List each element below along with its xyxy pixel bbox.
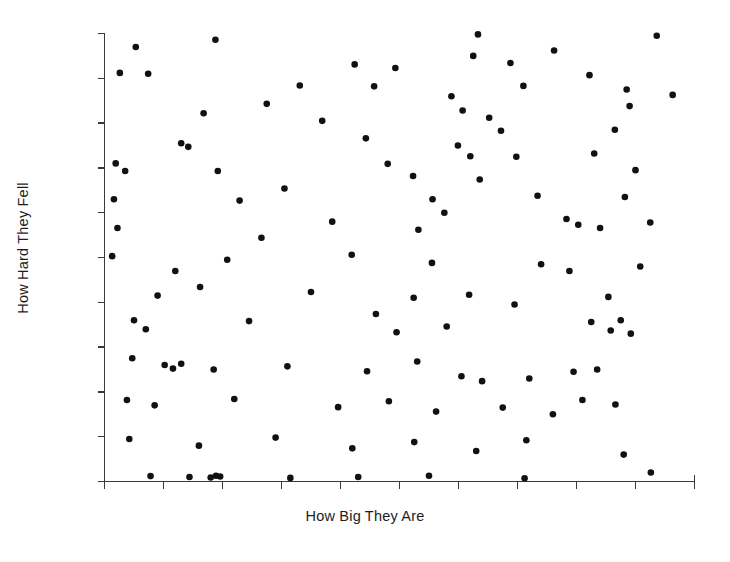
data-point: [349, 445, 356, 452]
data-point: [392, 65, 399, 72]
data-point: [476, 176, 483, 183]
data-point: [534, 192, 541, 199]
data-point: [513, 153, 520, 160]
data-point: [231, 396, 238, 403]
data-point: [520, 83, 527, 90]
data-point: [566, 268, 573, 275]
data-point: [178, 360, 185, 367]
data-point: [591, 150, 598, 157]
data-point: [617, 317, 624, 324]
data-point: [597, 225, 604, 232]
data-point: [632, 167, 639, 174]
data-point: [579, 397, 586, 404]
data-point: [620, 451, 627, 458]
data-point: [236, 197, 243, 204]
data-point: [466, 291, 473, 298]
data-point: [131, 317, 138, 324]
data-point: [185, 144, 192, 151]
data-point: [551, 47, 558, 54]
data-point: [443, 323, 450, 330]
data-point: [479, 378, 486, 385]
data-point: [647, 219, 654, 226]
x-axis-title: How Big They Are: [0, 508, 730, 524]
data-point: [117, 70, 124, 77]
data-point: [132, 44, 139, 51]
data-point: [538, 261, 545, 268]
data-point: [627, 330, 634, 337]
data-point: [473, 448, 480, 455]
data-point: [335, 404, 342, 411]
data-point: [575, 222, 582, 229]
data-point: [511, 301, 518, 308]
data-point: [178, 140, 185, 147]
data-point: [217, 473, 224, 480]
data-point: [563, 216, 570, 223]
data-point: [224, 256, 231, 263]
data-point: [246, 318, 253, 325]
data-point: [526, 375, 533, 382]
data-point: [197, 284, 204, 291]
data-point: [459, 107, 466, 114]
data-point: [386, 398, 393, 405]
data-point: [507, 60, 514, 67]
data-point: [669, 92, 676, 99]
data-point: [363, 135, 370, 142]
data-point: [200, 110, 207, 117]
data-point: [410, 295, 417, 302]
data-point: [586, 72, 593, 79]
data-point: [258, 234, 265, 241]
data-point: [319, 118, 326, 125]
data-point: [426, 472, 433, 479]
data-point: [626, 103, 633, 110]
data-point: [111, 196, 118, 203]
data-point: [612, 401, 619, 408]
data-point: [458, 373, 465, 380]
data-point: [170, 365, 177, 372]
data-point: [126, 436, 133, 443]
axes-group: [98, 34, 695, 489]
data-point: [612, 127, 619, 134]
data-point: [410, 173, 417, 180]
y-axis-title-container: How Hard They Fell: [0, 0, 46, 495]
data-point: [186, 474, 193, 481]
data-point: [112, 160, 119, 167]
data-point: [594, 366, 601, 373]
data-point: [550, 411, 557, 418]
plot-canvas: [0, 0, 730, 562]
data-point: [308, 289, 315, 296]
data-point: [486, 114, 493, 121]
y-axis-title: How Hard They Fell: [15, 182, 31, 313]
data-point: [114, 225, 121, 232]
data-point: [384, 161, 391, 168]
data-point: [411, 439, 418, 446]
data-point: [287, 475, 294, 482]
scatter-plot-figure: How Hard They Fell How Big They Are: [0, 0, 730, 562]
data-point: [570, 368, 577, 375]
data-point: [147, 473, 154, 480]
data-point: [355, 474, 362, 481]
data-point: [351, 61, 358, 68]
data-point: [637, 263, 644, 270]
data-point: [622, 194, 629, 201]
data-point: [605, 294, 612, 301]
data-point: [429, 260, 436, 267]
data-point: [455, 142, 462, 149]
data-point: [371, 83, 378, 90]
data-point: [263, 101, 270, 108]
data-point: [214, 168, 221, 175]
data-point: [329, 218, 336, 225]
data-point: [623, 86, 630, 93]
data-point: [467, 153, 474, 160]
data-point: [284, 363, 291, 370]
data-point: [151, 402, 158, 409]
data-point: [475, 31, 482, 38]
data-point: [109, 253, 116, 260]
data-point: [210, 366, 217, 373]
data-point: [196, 442, 203, 449]
data-point: [498, 127, 505, 134]
data-point: [607, 327, 614, 334]
data-point: [521, 475, 528, 482]
data-point: [281, 185, 288, 192]
data-point: [653, 32, 660, 39]
data-point: [588, 319, 595, 326]
